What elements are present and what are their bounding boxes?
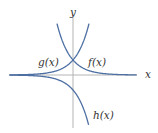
label-h: h(x) [93, 109, 114, 121]
label-g: g(x) [38, 56, 59, 68]
curve-h [9, 75, 88, 125]
x-axis-label: x [145, 68, 151, 80]
exponential-curves-plot: y x g(x) f(x) h(x) [0, 0, 158, 133]
y-axis-label: y [69, 6, 77, 18]
label-f: f(x) [87, 56, 106, 68]
